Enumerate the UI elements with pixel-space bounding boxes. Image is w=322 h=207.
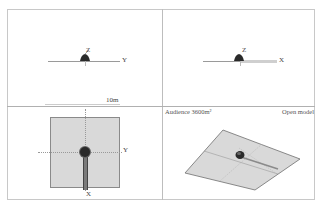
scale-bar xyxy=(45,104,120,105)
scale-label: 10m xyxy=(106,97,118,104)
z-axis-label: Z xyxy=(242,47,246,54)
y-axis-label: Y xyxy=(122,57,127,64)
viewport-top-xy[interactable]: Y X xyxy=(8,107,162,199)
x-axis-label: X xyxy=(86,191,91,198)
x-axis-band xyxy=(241,60,277,63)
viewport-side-yz[interactable]: Z Y xyxy=(8,10,162,106)
x-axis-label: X xyxy=(279,57,284,64)
viewport-side-xz[interactable]: Z X xyxy=(163,10,315,106)
perspective-plane xyxy=(163,107,315,199)
y-axis-label: Y xyxy=(123,147,128,154)
z-axis-label: Z xyxy=(86,47,90,54)
viewport-perspective[interactable]: Audience 3600m² Open model xyxy=(163,107,315,199)
x-axis-track xyxy=(83,154,88,190)
object-marker xyxy=(80,147,90,157)
